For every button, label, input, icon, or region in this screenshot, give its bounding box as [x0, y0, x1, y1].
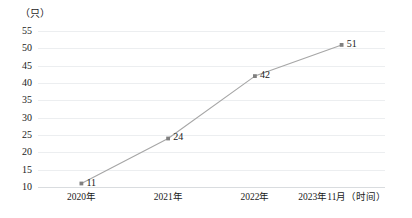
- gridline: [38, 152, 385, 153]
- y-axis-tick-label: 15: [2, 165, 32, 175]
- gridline: [38, 83, 385, 84]
- data-point-marker: [80, 182, 84, 186]
- y-axis-tick-label: 50: [2, 43, 32, 53]
- data-point-value-label: 11: [86, 178, 96, 188]
- x-axis-tick-label: 2020年: [38, 192, 125, 203]
- y-axis-tick-label: 35: [2, 95, 32, 105]
- series-line-layer: [0, 0, 412, 218]
- y-axis-tick-label: 55: [2, 26, 32, 36]
- gridline: [38, 100, 385, 101]
- data-point-value-label: 51: [347, 39, 357, 49]
- data-point-value-label: 24: [173, 132, 183, 142]
- gridline: [38, 135, 385, 136]
- x-axis-tick-label: 2022年: [212, 192, 299, 203]
- data-point-marker: [253, 74, 257, 78]
- y-axis-tick-label: 30: [2, 113, 32, 123]
- y-axis-unit-label: （只）: [20, 8, 50, 20]
- gridline: [38, 48, 385, 49]
- series-markers: [80, 43, 344, 185]
- gridline: [38, 170, 385, 171]
- data-point-marker: [340, 43, 344, 47]
- line-chart: （只） 10152025303540455055 2020年2021年2022年…: [0, 0, 412, 218]
- y-axis-tick-label: 25: [2, 130, 32, 140]
- y-axis-tick-label: 20: [2, 147, 32, 157]
- gridline: [38, 31, 385, 32]
- y-axis-tick-label: 10: [2, 182, 32, 192]
- x-axis-tick-label: 2023年11月（时间）: [298, 192, 385, 203]
- y-axis-tick-label: 45: [2, 61, 32, 71]
- x-axis-tick-label: 2021年: [125, 192, 212, 203]
- data-point-value-label: 42: [260, 70, 270, 80]
- y-axis-tick-label: 40: [2, 78, 32, 88]
- gridline: [38, 66, 385, 67]
- data-point-marker: [166, 137, 170, 141]
- gridline: [38, 118, 385, 119]
